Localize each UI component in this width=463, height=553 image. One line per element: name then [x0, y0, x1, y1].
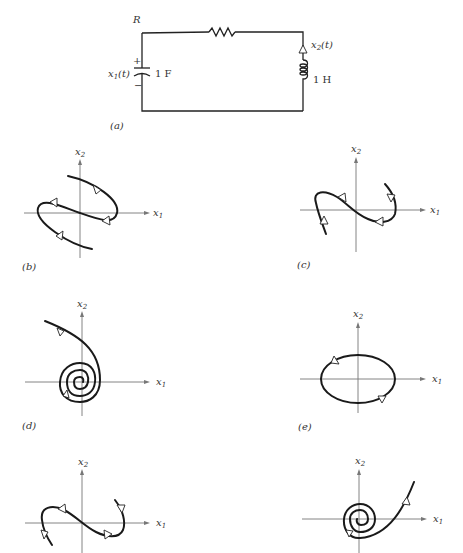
x1-axis-label: x1 [156, 517, 166, 530]
panel-label-b: (b) [22, 261, 36, 272]
svg-text:x1: x1 [432, 373, 442, 386]
plus-sign: + [133, 55, 141, 66]
wire-top-right [235, 32, 303, 48]
svg-text:x2(t): x2(t) [311, 39, 333, 52]
x2-axis-arrow-icon [78, 159, 82, 165]
direction-arrow-icon [102, 216, 110, 225]
x2-axis-label: x2 [351, 143, 362, 156]
x1-axis-arrow-icon [420, 208, 426, 212]
x2-axis-label: x2 [75, 146, 86, 159]
svg-text:x1: x1 [156, 376, 166, 389]
trajectory-c [315, 184, 395, 234]
x2-axis-label: x2 [77, 298, 88, 311]
trajectory-b [38, 176, 118, 249]
svg-text:x2: x2 [355, 455, 366, 468]
panel-label-d: (d) [22, 420, 36, 431]
x1-axis-label: x1 [156, 376, 166, 389]
x1-axis-arrow-icon [144, 380, 150, 384]
capacitor-label: 1 F [155, 68, 172, 79]
trajectory-f [42, 500, 124, 545]
x1-axis-label: x1 [430, 204, 440, 217]
phase-portrait-c: x1 x2 (c) [297, 143, 440, 270]
x2-axis-arrow-icon [356, 322, 360, 328]
resistor-label: R [132, 14, 141, 25]
svg-text:x1: x1 [153, 207, 163, 220]
panel-label-c: (c) [297, 259, 311, 270]
x2-axis-label: x2 [355, 455, 366, 468]
svg-text:x2: x2 [353, 308, 364, 321]
circuit-diagram: R + − x1(t) 1 F x2(t) 1 H (a) [108, 14, 333, 131]
x1-axis-arrow-icon [144, 521, 150, 525]
svg-text:x1: x1 [433, 513, 443, 526]
direction-arrow-icon [402, 497, 410, 505]
svg-text:x2: x2 [351, 143, 362, 156]
x2-axis-arrow-icon [80, 311, 84, 317]
svg-text:x2: x2 [75, 146, 86, 159]
trajectory-g-spiral [344, 482, 414, 538]
figure-canvas: R + − x1(t) 1 F x2(t) 1 H (a) x1 x2 (b) [0, 0, 463, 553]
x1-axis-arrow-icon [420, 377, 426, 381]
phase-portrait-e: x1 x2 (e) [298, 308, 442, 432]
inductor-icon [300, 60, 308, 111]
resistor-icon [209, 28, 235, 36]
svg-text:x2: x2 [78, 456, 89, 469]
x2-axis-label: x2 [353, 308, 364, 321]
x1-axis-arrow-icon [144, 211, 150, 215]
x1-axis-arrow-icon [421, 517, 427, 521]
trajectory-d-spiral [45, 321, 100, 402]
phase-portrait-d: x1 x2 (d) [22, 298, 166, 431]
direction-arrow-icon [50, 198, 57, 207]
panel-label-a: (a) [110, 120, 124, 131]
current-label: x2(t) [311, 39, 333, 52]
inductor-label: 1 H [313, 74, 332, 85]
direction-arrow-icon [117, 505, 125, 513]
svg-text:x1: x1 [430, 204, 440, 217]
x2-axis-arrow-icon [80, 469, 84, 475]
phase-portrait-b: x1 x2 (b) [22, 146, 163, 272]
wire-top-left [142, 32, 209, 33]
svg-text:x2: x2 [77, 298, 88, 311]
panel-label-e: (e) [298, 421, 312, 432]
phase-portrait-g: x1 x2 [302, 455, 443, 553]
phase-portrait-f: x1 x2 [25, 456, 166, 553]
svg-text:x1(t): x1(t) [108, 68, 130, 81]
x2-axis-arrow-icon [354, 157, 358, 163]
x2-axis-arrow-icon [357, 469, 361, 475]
x1-axis-label: x1 [433, 513, 443, 526]
x1-axis-label: x1 [432, 373, 442, 386]
x1-axis-label: x1 [153, 207, 163, 220]
voltage-label: x1(t) [108, 68, 130, 81]
current-arrow-icon [299, 45, 307, 53]
svg-text:x1: x1 [156, 517, 166, 530]
direction-arrow-icon [375, 217, 383, 226]
direction-arrow-icon [331, 356, 339, 364]
direction-arrow-icon [58, 504, 66, 513]
minus-sign: − [134, 80, 142, 91]
direction-arrow-icon [104, 530, 112, 539]
x2-axis-label: x2 [78, 456, 89, 469]
